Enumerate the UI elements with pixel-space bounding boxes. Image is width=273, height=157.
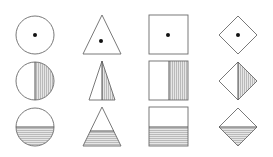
triangle-bottom-shaded [83, 107, 121, 146]
triangle-with-dot [83, 15, 121, 54]
circle-bottom-half-shaded [16, 108, 54, 146]
square-bottom-half-shaded [149, 107, 188, 146]
row-center-dot [16, 15, 257, 54]
center-dot-icon [236, 33, 240, 37]
circle-right-half-shaded [16, 62, 54, 100]
row-bottom-shaded [16, 107, 257, 146]
diamond-right-half-shaded [219, 62, 257, 100]
circle-with-dot [16, 16, 54, 54]
diamond-bottom-half-shaded [219, 108, 257, 146]
square-right-half-shaded [149, 61, 188, 100]
triangle-right-half-shaded [89, 61, 115, 100]
center-dot-icon [99, 39, 103, 43]
center-dot-icon [33, 33, 37, 37]
diamond-with-dot [219, 16, 257, 54]
row-right-half-shaded [16, 61, 257, 100]
square-with-dot [149, 15, 188, 54]
shape-grid-diagram [0, 0, 273, 157]
center-dot-icon [166, 33, 170, 37]
